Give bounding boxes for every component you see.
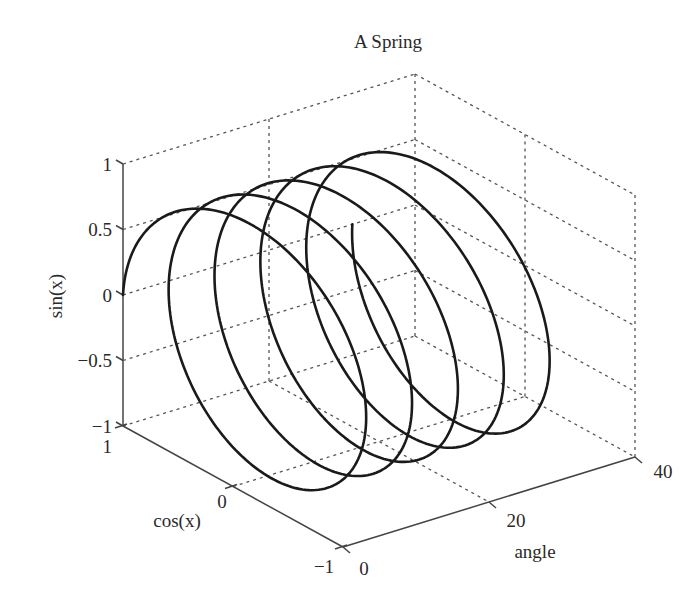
z-axis-label: sin(x) (45, 274, 67, 318)
axes (115, 160, 642, 553)
x-tick-mark (343, 547, 350, 553)
z-tick-minus-0.5: −0.5 (78, 350, 112, 371)
z-tick-0: 0 (103, 285, 113, 306)
y-tick-0: 0 (217, 491, 227, 512)
y-tick-minus-1: −1 (314, 556, 334, 577)
chart-title: A Spring (354, 31, 423, 52)
z-tick-mark (116, 160, 123, 164)
z-tick-1: 1 (103, 154, 113, 175)
spring-3d-chart: A Spring sin(x) cos(x) angle 1 0.5 0 −0.… (0, 0, 698, 589)
x-tick-mark (635, 457, 642, 463)
y-tick-1: 1 (103, 436, 113, 457)
gridline-floor (269, 381, 489, 502)
x-tick-0: 0 (359, 558, 369, 579)
gridline-floor (233, 397, 525, 487)
z-tick-mark (116, 226, 123, 230)
z-tick-mark (116, 357, 123, 361)
x-tick-40: 40 (654, 461, 673, 482)
x-axis-label: angle (514, 541, 555, 562)
x-tick-20: 20 (507, 510, 526, 531)
spring-curve (123, 152, 550, 490)
grid-lines (123, 74, 635, 502)
x-tick-mark (489, 502, 496, 508)
y-axis-label: cos(x) (153, 510, 200, 532)
z-tick-minus-1: −1 (92, 416, 112, 437)
z-tick-0.5: 0.5 (88, 219, 112, 240)
